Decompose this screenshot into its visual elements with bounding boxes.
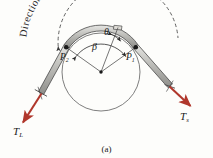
tension-left-arrow [23, 94, 42, 123]
point-p1-letter: P [126, 52, 132, 62]
point-p1-label: P1 [126, 53, 135, 63]
figure-canvas: Direction of impending slipping [0, 0, 213, 158]
angle-beta-label: β [92, 42, 97, 52]
tension-right-label: Ts [180, 111, 189, 122]
beta-angle-arc [76, 44, 126, 57]
point-p1-dot [134, 45, 139, 50]
drum-center-dot [99, 70, 102, 73]
belt-friction-figure: Direction of impending slipping θ β P2 P… [0, 0, 213, 158]
point-p2-subscript: 2 [66, 57, 69, 63]
tension-right-subscript: s [186, 116, 189, 123]
figure-caption: (a) [0, 144, 213, 154]
tension-left-label: TL [13, 126, 23, 137]
point-p2-label: P2 [60, 53, 69, 63]
point-p2-letter: P [60, 52, 66, 62]
tension-left-subscript: L [19, 131, 23, 138]
angle-theta-label: θ [104, 27, 109, 37]
point-p1-subscript: 1 [132, 57, 135, 63]
point-p2-dot [64, 45, 69, 50]
tension-right-arrow [170, 87, 191, 107]
